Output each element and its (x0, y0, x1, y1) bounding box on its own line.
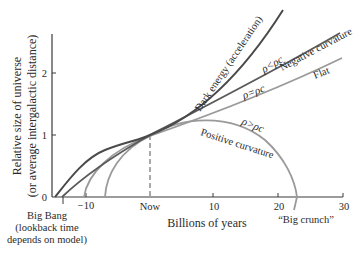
x-axis-label: Billions of years (167, 216, 247, 230)
y-tick-label-1: 1 (42, 130, 47, 141)
y-tick-label-0: 0 (42, 192, 47, 203)
x-tick-label-minus10: −10 (78, 200, 94, 211)
x-tick-label-10: 10 (209, 201, 220, 212)
label-dark-energy: Dark energy (acceleration) (193, 13, 266, 113)
big-bang-note-2: depends on model) (7, 234, 87, 246)
label-positive-curvature: Positive curvature (199, 126, 275, 160)
big-bang-label: Big Bang (27, 210, 68, 221)
x-tick-label-30: 30 (339, 201, 350, 212)
label-flat: Flat (312, 65, 331, 81)
label-negative-curvature: Negative curvature (278, 25, 354, 73)
y-axis-title: Relative size of universe (or average in… (10, 35, 39, 198)
x-tick-label-20: 20 (274, 201, 285, 212)
big-crunch-label: “Big crunch” (278, 214, 334, 225)
y-axis-label: Relative size of universe (10, 57, 24, 175)
y-axis-sublabel: (or average intergalactic distance) (25, 35, 39, 198)
big-bang-note-1: (lookback time (15, 222, 79, 234)
x-tick-label-now: Now (140, 201, 161, 212)
label-rho-equal: ρ=ρc (240, 82, 267, 101)
cosmic-expansion-chart: Relative size of universe (or average in… (0, 0, 363, 254)
y-tick-label-2: 2 (42, 68, 47, 79)
